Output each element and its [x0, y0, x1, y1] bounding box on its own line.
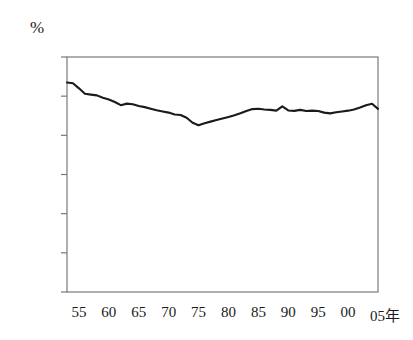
plot-area — [0, 0, 413, 340]
plot-frame — [67, 57, 378, 292]
y-axis-ticks — [61, 57, 67, 292]
axis-frame — [67, 57, 378, 292]
chart-container: % 0.020.040.060.080.0100.0120.0 55606570… — [0, 0, 413, 340]
